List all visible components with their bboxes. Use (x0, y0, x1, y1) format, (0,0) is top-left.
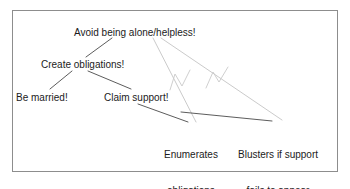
node-blusters-if-support[interactable]: Blusters if support fails to appear (238, 125, 318, 189)
diagram-screenshot: Avoid being alone/helpless! Create oblig… (0, 0, 350, 189)
node-create-obligations[interactable]: Create obligations! (41, 59, 124, 71)
node-blusters-if-support-line1: Blusters if support (238, 149, 318, 161)
node-be-married[interactable]: Be married! (16, 92, 68, 104)
node-enumerates-obligations-line1: Enumerates (164, 149, 218, 161)
node-avoid-being-alone[interactable]: Avoid being alone/helpless! (74, 27, 196, 39)
node-enumerates-obligations[interactable]: Enumerates obligations (164, 125, 218, 189)
node-blusters-if-support-line2: fails to appear (238, 185, 318, 189)
node-enumerates-obligations-line2: obligations (164, 185, 218, 189)
node-claim-support[interactable]: Claim support! (104, 92, 168, 104)
